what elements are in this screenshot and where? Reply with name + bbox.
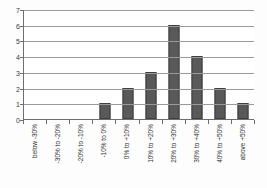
gridline: [24, 57, 254, 58]
x-axis-tick-mark: [46, 120, 47, 124]
x-axis-tick-label: 30% to +40%: [193, 124, 200, 163]
x-axis-tick-mark: [231, 120, 232, 124]
y-axis-tick-label: 7: [6, 7, 20, 14]
x-axis-tick-mark: [139, 120, 140, 124]
bar[interactable]: [122, 88, 133, 119]
x-axis-tick-label: 40% to +50%: [216, 124, 223, 163]
x-axis-tick-mark: [115, 120, 116, 124]
y-axis-tick-mark: [20, 10, 23, 11]
gridline: [24, 41, 254, 42]
x-axis-tick-label: 20% to +30%: [170, 124, 177, 163]
bar[interactable]: [99, 103, 110, 119]
y-axis-tick-labels: 01234567: [6, 10, 20, 120]
chart-plot-wrapper: 01234567 below -30%-30% to -20%-20% to -…: [0, 0, 267, 188]
x-axis-tick-label: 10% to +20%: [147, 124, 154, 163]
x-axis-tick-label: 0% to +10%: [123, 124, 130, 159]
histogram-chart: 01234567 below -30%-30% to -20%-20% to -…: [0, 0, 267, 188]
y-axis-tick-mark: [20, 26, 23, 27]
x-axis-tick-label: -30% to -20%: [54, 124, 61, 163]
x-axis-tick-label: below -30%: [31, 124, 38, 158]
y-axis-tick-mark: [20, 104, 23, 105]
y-axis-tick-label: 0: [6, 117, 20, 124]
x-axis-tick-label: above +50%: [239, 124, 246, 160]
bar[interactable]: [215, 88, 226, 119]
y-axis-tick-mark: [20, 89, 23, 90]
x-axis-tick-label: -20% to -10%: [77, 124, 84, 163]
x-axis-tick-label: -10% to 0%: [100, 124, 107, 158]
x-axis-tick-mark: [162, 120, 163, 124]
gridline: [24, 89, 254, 90]
y-axis-tick-label: 5: [6, 38, 20, 45]
y-axis-tick-mark: [20, 57, 23, 58]
y-axis-tick-label: 4: [6, 54, 20, 61]
bar[interactable]: [146, 72, 157, 119]
gridline: [24, 73, 254, 74]
y-axis-tick-label: 2: [6, 85, 20, 92]
y-axis-tick-label: 1: [6, 101, 20, 108]
x-axis-tick-mark: [208, 120, 209, 124]
plot-area: [23, 10, 254, 120]
y-axis-tick-label: 6: [6, 22, 20, 29]
y-axis-tick-mark: [20, 73, 23, 74]
gridline: [24, 104, 254, 105]
gridline: [24, 26, 254, 27]
x-axis-tick-mark: [92, 120, 93, 124]
x-axis-tick-mark: [254, 120, 255, 124]
x-axis-tick-mark: [69, 120, 70, 124]
x-axis-tick-mark: [23, 120, 24, 124]
gridline: [24, 10, 254, 11]
bar[interactable]: [238, 103, 249, 119]
y-axis-tick-label: 3: [6, 69, 20, 76]
x-axis-tick-labels: below -30%-30% to -20%-20% to -10%-10% t…: [23, 124, 254, 186]
x-axis-tick-mark: [185, 120, 186, 124]
y-axis-tick-mark: [20, 41, 23, 42]
